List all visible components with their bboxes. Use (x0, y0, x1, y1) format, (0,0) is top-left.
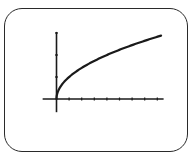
function-plot (0, 0, 193, 157)
sqrt-curve (57, 36, 162, 99)
